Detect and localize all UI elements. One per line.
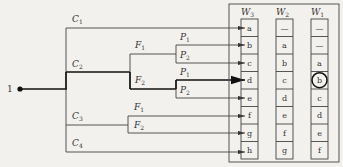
column-w3-header: W3 xyxy=(241,7,254,18)
cell: c xyxy=(247,59,252,68)
branch-c4-label: C4 xyxy=(72,138,83,149)
branch-c2-label: C2 xyxy=(72,59,83,70)
c3-f2-label: F2 xyxy=(133,120,144,131)
c2-f2-p2-label: P2 xyxy=(179,85,190,96)
cell-highlighted: b xyxy=(317,76,322,85)
cell: — xyxy=(281,24,289,33)
tree-diagram: 1 C1 C2 F1 P1 P2 F2 P1 P2 C3 F1 F2 C4 W3… xyxy=(0,0,343,167)
start-label: 1 xyxy=(7,84,13,94)
cell: a xyxy=(317,59,322,68)
cell: e xyxy=(247,94,252,103)
c2-f1-p2-label: P2 xyxy=(179,50,190,61)
column-w1 xyxy=(311,19,328,159)
c2-f1-p1-label: P1 xyxy=(179,32,190,43)
column-w2 xyxy=(276,19,293,159)
cell: e xyxy=(282,111,287,120)
c2-f2-p1-label: P1 xyxy=(179,67,190,78)
cell: f xyxy=(248,111,252,120)
c3-f1-label: F1 xyxy=(133,102,144,113)
cell: h xyxy=(247,146,252,155)
cell: c xyxy=(282,76,287,85)
cell: g xyxy=(282,146,287,155)
cell: e xyxy=(317,129,322,138)
cell: b xyxy=(282,59,287,68)
cell: d xyxy=(317,111,322,120)
c2-f1-label: F1 xyxy=(134,40,145,51)
cell: — xyxy=(316,41,324,50)
c2-f2-label: F2 xyxy=(134,75,145,86)
column-w1-header: W1 xyxy=(311,7,324,18)
cell: f xyxy=(283,129,287,138)
branch-c3-label: C3 xyxy=(72,111,83,122)
cell: f xyxy=(318,146,322,155)
cell: c xyxy=(317,94,322,103)
cell: d xyxy=(247,76,252,85)
cell: b xyxy=(247,41,252,50)
column-w2-header: W2 xyxy=(276,7,289,18)
cell: a xyxy=(282,41,287,50)
cell: d xyxy=(282,94,287,103)
cell: — xyxy=(316,24,324,33)
cell: a xyxy=(247,24,252,33)
column-w3 xyxy=(241,19,258,159)
branch-c1-label: C1 xyxy=(72,14,83,25)
cell: g xyxy=(247,129,252,138)
